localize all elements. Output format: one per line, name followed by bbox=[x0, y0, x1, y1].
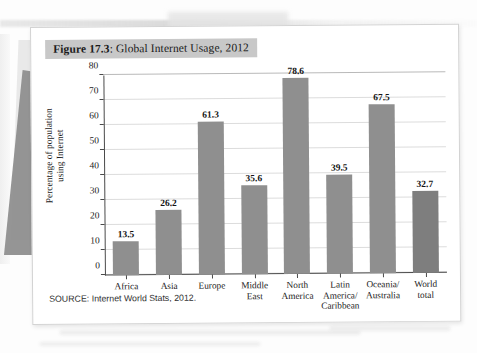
bar-value-label: 32.7 bbox=[417, 179, 434, 189]
bar bbox=[368, 104, 395, 273]
bar bbox=[198, 121, 225, 274]
x-category-label-line: World bbox=[397, 279, 455, 290]
bar-value-label: 61.3 bbox=[202, 109, 219, 119]
y-tick-label: 0 bbox=[95, 260, 100, 270]
y-tick-label: 30 bbox=[90, 185, 100, 195]
bar-value-label: 26.2 bbox=[160, 197, 177, 207]
bar-value-label: 13.5 bbox=[118, 229, 135, 239]
x-tick-mark bbox=[426, 273, 427, 277]
x-tick-mark bbox=[383, 273, 384, 277]
figure-card: Figure 17.3: Global Internet Usage, 2012… bbox=[30, 24, 461, 325]
bar-group: 39.5LatinAmerica/Caribbean bbox=[317, 73, 361, 273]
x-tick-mark bbox=[297, 274, 298, 278]
figure-title-number: Figure 17.3 bbox=[53, 42, 110, 54]
bar-group: 61.3Europe bbox=[189, 74, 233, 274]
x-tick-mark bbox=[169, 275, 170, 279]
x-tick-mark bbox=[255, 274, 256, 278]
y-tick-label: 10 bbox=[90, 235, 100, 245]
bar bbox=[326, 175, 353, 274]
y-tick-label: 40 bbox=[90, 160, 100, 170]
bar-chart: Percentage of population using Internet … bbox=[45, 73, 447, 276]
y-tick-label: 60 bbox=[89, 110, 99, 120]
bar-group: 26.2Asia bbox=[146, 75, 190, 275]
y-tick-label: 80 bbox=[89, 60, 99, 70]
bar-group: 78.6NorthAmerica bbox=[274, 74, 318, 274]
figure-title: Figure 17.3: Global Internet Usage, 2012 bbox=[45, 38, 257, 59]
bars: 13.5Africa26.2Asia61.3Europe35.6MiddleEa… bbox=[103, 73, 447, 276]
y-tick-label: 20 bbox=[90, 210, 100, 220]
y-tick-label: 50 bbox=[89, 135, 99, 145]
bar bbox=[113, 241, 139, 275]
bar bbox=[241, 185, 268, 274]
y-axis-title-line2: using Internet bbox=[54, 82, 66, 230]
figure-source-note: SOURCE: Internet World Stats, 2012. bbox=[49, 293, 196, 304]
bar-value-label: 39.5 bbox=[331, 163, 348, 173]
figure-title-text: : Global Internet Usage, 2012 bbox=[110, 41, 249, 54]
x-category-label-line: Caribbean bbox=[311, 300, 369, 311]
y-tick-label: 70 bbox=[89, 85, 99, 95]
bar-value-label: 35.6 bbox=[245, 173, 262, 183]
scan-smudge bbox=[60, 330, 360, 335]
x-category-label-line: total bbox=[397, 289, 455, 300]
scan-smudge bbox=[330, 326, 450, 331]
bar bbox=[283, 77, 311, 274]
x-tick-mark bbox=[340, 274, 341, 278]
scanned-page-background: Figure 17.3: Global Internet Usage, 2012… bbox=[0, 0, 477, 353]
bar-group: 67.5Oceania/Australia bbox=[360, 73, 404, 273]
y-axis-title: Percentage of population using Internet bbox=[43, 82, 64, 230]
plot-area: 01020304050607080 13.5Africa26.2Asia61.3… bbox=[103, 73, 447, 276]
bar-value-label: 78.6 bbox=[287, 65, 304, 75]
scan-smudge bbox=[40, 342, 260, 346]
x-category-label: Worldtotal bbox=[397, 279, 455, 300]
x-tick-mark bbox=[126, 275, 127, 279]
bar-value-label: 67.5 bbox=[373, 92, 390, 102]
bar-group: 32.7Worldtotal bbox=[403, 73, 447, 273]
bar bbox=[156, 209, 183, 275]
bar-group: 13.5Africa bbox=[103, 75, 147, 275]
bar-group: 35.6MiddleEast bbox=[232, 74, 276, 274]
bar bbox=[412, 191, 439, 273]
x-tick-mark bbox=[212, 275, 213, 279]
